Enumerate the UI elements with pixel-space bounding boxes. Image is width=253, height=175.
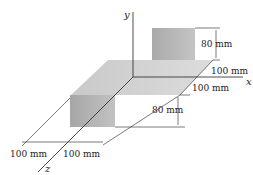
- bent-plate-diagram: y x z 80 mm 100 mm 100 mm 80 mm 100 mm 1…: [0, 0, 253, 175]
- upper-vertical-plate: [152, 28, 195, 60]
- lower-vertical-plate: [70, 95, 115, 127]
- y-axis-label: y: [123, 9, 130, 20]
- dim-plate-width: 100 mm: [192, 83, 230, 93]
- dim-upper-offset: 100 mm: [211, 66, 249, 76]
- z-axis-label: z: [44, 163, 51, 174]
- dim-upper-height: 80 mm: [201, 39, 233, 49]
- dim-bottom-right: 100 mm: [63, 149, 101, 159]
- extension-line: [22, 98, 70, 146]
- x-axis-label: x: [246, 76, 252, 87]
- dim-lower-height: 80 mm: [152, 105, 184, 115]
- dim-bottom-left: 100 mm: [10, 149, 48, 159]
- diagram-canvas: y x z 80 mm 100 mm 100 mm 80 mm 100 mm 1…: [0, 0, 253, 175]
